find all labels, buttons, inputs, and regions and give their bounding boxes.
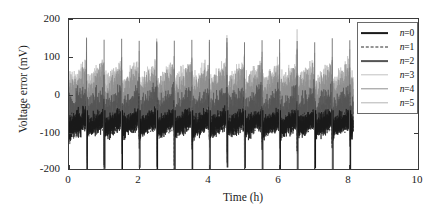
x-tick-label-8: 8 [328,173,368,185]
y-tick-minus200 [69,169,73,170]
legend-label-n0: n=0 [389,28,414,38]
x-axis-title: Time (h) [148,191,338,203]
legend-label-n4: n=4 [389,84,414,94]
x-tick-6 [279,165,280,169]
legend-label-n1: n=1 [389,42,414,52]
legend-swatch-n0 [361,28,388,38]
legend-label-n3: n=3 [389,70,414,80]
x-tick-10 [418,165,419,169]
legend-item-n3[interactable]: n=3 [361,68,414,82]
legend-item-n4[interactable]: n=4 [361,82,414,96]
x-tick-2 [139,165,140,169]
legend-swatch-n5 [361,98,388,108]
legend-item-n0[interactable]: n=0 [361,26,414,40]
legend-label-n5: n=5 [389,98,414,108]
legend-item-n5[interactable]: n=5 [361,96,414,110]
y-tick-minus100 [69,133,73,134]
legend: n=0 n=1 n=2 n=3 n=4 n=5 [357,22,418,114]
legend-swatch-n4 [361,84,388,94]
x-tick-label-10: 10 [397,173,434,185]
x-tick-top-2 [139,19,140,23]
x-tick-4 [209,165,210,169]
x-tick-label-0: 0 [48,173,88,185]
legend-item-n1[interactable]: n=1 [361,40,414,54]
x-tick-label-4: 4 [188,173,228,185]
y-tick-100 [69,57,73,58]
y-axis-title: Voltage error (mV) [17,9,29,169]
legend-label-n2: n=2 [389,56,414,66]
y-tick-200 [69,19,73,20]
legend-swatch-n3 [361,70,388,80]
x-tick-top-4 [209,19,210,23]
x-tick-8 [349,165,350,169]
x-tick-label-2: 2 [118,173,158,185]
legend-swatch-n2 [361,56,388,66]
x-tick-top-6 [279,19,280,23]
x-tick-label-6: 6 [258,173,298,185]
y-tick-right-minus100 [414,133,418,134]
figure: 0 2 4 6 8 10 200 100 0 -100 -200 Time (h… [0,0,434,220]
y-tick-0 [69,95,73,96]
x-tick-top-8 [349,19,350,23]
legend-swatch-n1 [361,42,388,52]
legend-item-n2[interactable]: n=2 [361,54,414,68]
